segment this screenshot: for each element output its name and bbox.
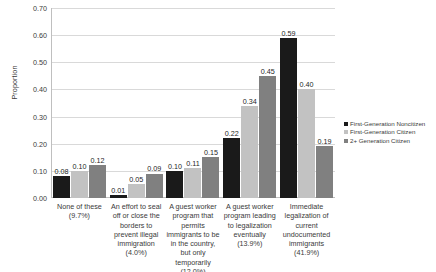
x-category-label: Immediate legalization of current undocu… [278, 202, 335, 268]
bar[interactable]: 0.05 [128, 184, 145, 198]
bar-group: 0.590.400.19 [278, 8, 335, 198]
bar[interactable]: 0.09 [146, 174, 163, 198]
bar-slot: 0.59 [280, 8, 297, 198]
y-tick-label: 0.30 [33, 112, 47, 121]
bar-value-label: 0.01 [111, 187, 125, 194]
bar-slot: 0.12 [89, 8, 106, 198]
chart-legend: First-Generation NoncitizenFirst-Generat… [344, 121, 436, 146]
legend-swatch-icon [344, 122, 348, 126]
bar-group: 0.080.100.12 [51, 8, 108, 198]
bar-value-label: 0.40 [300, 81, 314, 88]
bar-slot: 0.15 [202, 8, 219, 198]
bar-groups: 0.080.100.120.010.050.090.100.110.150.22… [51, 8, 335, 198]
bar-value-label: 0.08 [54, 168, 68, 175]
legend-item[interactable]: 2+ Generation Citizen [344, 138, 436, 144]
bar-slot: 0.05 [128, 8, 145, 198]
bar-value-label: 0.11 [186, 160, 199, 167]
legend-swatch-icon [344, 139, 348, 143]
bar[interactable]: 0.08 [53, 176, 70, 198]
bar-group: 0.220.340.45 [221, 8, 278, 198]
bar-slot: 0.10 [71, 8, 88, 198]
plot-area: 0.080.100.120.010.050.090.100.110.150.22… [51, 8, 335, 198]
bar-slot: 0.09 [146, 8, 163, 198]
x-category-label: A guest worker program leading to legali… [221, 202, 278, 268]
y-tick-label: 0.00 [33, 194, 47, 203]
bar-value-label: 0.45 [261, 68, 275, 75]
bar[interactable]: 0.45 [259, 76, 276, 198]
y-tick-label: 0.60 [33, 31, 47, 40]
y-tick-label: 0.10 [33, 166, 47, 175]
bar-value-label: 0.34 [243, 98, 257, 105]
bar[interactable]: 0.12 [89, 165, 106, 198]
bar-value-label: 0.19 [318, 138, 332, 145]
x-category-label: A guest worker program that permits immi… [165, 202, 222, 268]
bar[interactable]: 0.40 [298, 89, 315, 198]
bar-slot: 0.40 [298, 8, 315, 198]
bar-group: 0.010.050.09 [108, 8, 165, 198]
bar-value-label: 0.59 [282, 30, 296, 37]
bar[interactable]: 0.10 [71, 171, 88, 198]
legend-label: First-Generation Citizen [350, 129, 415, 135]
bar-value-label: 0.12 [90, 157, 104, 164]
bar[interactable]: 0.19 [316, 146, 333, 198]
bar-value-label: 0.09 [147, 165, 161, 172]
y-tick-label: 0.70 [33, 4, 47, 13]
bar[interactable]: 0.59 [280, 38, 297, 198]
y-tick-label: 0.20 [33, 139, 47, 148]
bar-slot: 0.22 [223, 8, 240, 198]
bar[interactable]: 0.01 [110, 195, 127, 198]
bar-slot: 0.34 [241, 8, 258, 198]
bar-slot: 0.19 [316, 8, 333, 198]
y-tick-label: 0.50 [33, 58, 47, 67]
bar[interactable]: 0.15 [202, 157, 219, 198]
y-tick-label: 0.40 [33, 85, 47, 94]
legend-item[interactable]: First-Generation Noncitizen [344, 121, 436, 127]
legend-item[interactable]: First-Generation Citizen [344, 129, 436, 135]
bar-value-label: 0.10 [72, 163, 86, 170]
bar-chart: Proportion 0.700.600.500.400.300.200.100… [0, 0, 436, 272]
bar-slot: 0.10 [166, 8, 183, 198]
bar-slot: 0.01 [110, 8, 127, 198]
bar-slot: 0.11 [184, 8, 201, 198]
bar-slot: 0.08 [53, 8, 70, 198]
bar-group: 0.100.110.15 [165, 8, 222, 198]
bar[interactable]: 0.22 [223, 138, 240, 198]
x-category-label: None of these (9.7%) [51, 202, 108, 268]
bar-value-label: 0.22 [225, 130, 239, 137]
legend-swatch-icon [344, 130, 348, 134]
x-category-label: An effort to seal off or close the borde… [108, 202, 165, 268]
x-axis-category-labels: None of these (9.7%)An effort to seal of… [51, 202, 335, 268]
legend-label: 2+ Generation Citizen [350, 138, 410, 144]
bar-slot: 0.45 [259, 8, 276, 198]
bar[interactable]: 0.10 [166, 171, 183, 198]
bar[interactable]: 0.11 [184, 168, 201, 198]
bar-value-label: 0.15 [204, 149, 218, 156]
legend-label: First-Generation Noncitizen [350, 121, 425, 127]
bar-value-label: 0.05 [129, 176, 143, 183]
y-axis-tick-labels: 0.700.600.500.400.300.200.100.00 [14, 8, 47, 198]
bar-value-label: 0.10 [168, 163, 182, 170]
bar[interactable]: 0.34 [241, 106, 258, 198]
